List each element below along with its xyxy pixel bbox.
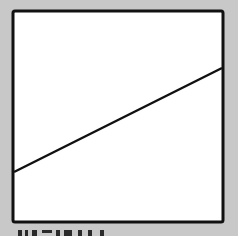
figure [0,0,238,236]
plot-frame [13,11,223,222]
diagram-canvas [0,0,238,236]
caption-cutoff [16,230,126,236]
